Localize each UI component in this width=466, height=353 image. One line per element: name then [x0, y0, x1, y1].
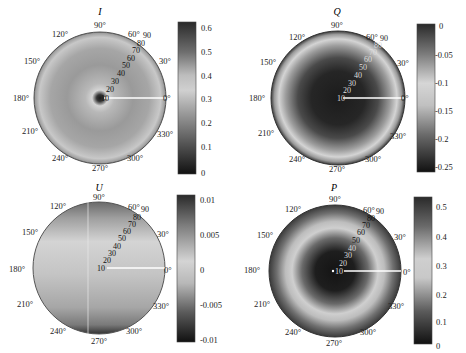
radial-tick-50: 50	[352, 236, 360, 245]
angle-150: 150°	[24, 56, 40, 66]
angle-210: 210°	[22, 126, 38, 136]
angle-90: 90°	[94, 20, 106, 30]
radial-tick-10: 10	[335, 267, 343, 276]
panel-title: I	[97, 6, 102, 17]
angle-330: 330°	[157, 129, 173, 139]
radial-tick-30: 30	[348, 79, 356, 88]
angle-150: 150°	[22, 227, 38, 237]
angle-0: 0°	[403, 267, 411, 277]
angle-60: 60°	[128, 202, 140, 212]
angle-180: 180°	[244, 265, 260, 275]
angle-30: 30°	[157, 229, 169, 239]
cb-tick: 0.3	[436, 261, 447, 271]
cb-tick: 0.5	[201, 47, 212, 57]
angle-150: 150°	[260, 57, 276, 67]
angle-210: 210°	[258, 128, 274, 138]
radial-tick-20: 20	[106, 85, 114, 94]
angle-120: 120°	[285, 204, 301, 214]
cb-tick: -0.15	[435, 106, 453, 116]
angle-240: 240°	[52, 153, 68, 163]
cb-tick: 0	[201, 168, 205, 176]
radial-tick-60: 60	[127, 54, 135, 63]
polar-plot-I: I 90° 120° 60° 150° 30° 180° 0° 210° 330…	[0, 0, 233, 176]
cb-tick: 0.2	[436, 290, 447, 300]
radial-tick-90: 90	[143, 31, 151, 40]
angle-270: 270°	[329, 164, 345, 174]
radial-tick-80: 80	[367, 214, 375, 223]
angle-30: 30°	[394, 232, 406, 242]
radial-tick-10: 10	[101, 94, 109, 103]
panel-title: P	[330, 182, 337, 193]
cb-tick: -0.005	[200, 300, 222, 310]
colorbar-I	[178, 22, 196, 174]
panel-title: Q	[333, 6, 341, 17]
angle-240: 240°	[50, 326, 66, 336]
colorbar-U	[177, 195, 195, 342]
cb-tick: 0.01	[200, 195, 215, 205]
radial-tick-80: 80	[133, 213, 141, 222]
angle-90: 90°	[93, 192, 105, 202]
radial-tick-30: 30	[111, 77, 119, 86]
angle-150: 150°	[257, 230, 273, 240]
cb-tick: 0.2	[201, 118, 212, 128]
angle-210: 210°	[17, 299, 33, 309]
cb-tick: 0	[200, 265, 204, 275]
angle-270: 270°	[91, 336, 107, 346]
angle-60: 60°	[128, 29, 140, 39]
radial-tick-40: 40	[354, 71, 362, 80]
colorbar-Q	[417, 24, 435, 172]
cb-tick: -0.2	[435, 134, 448, 144]
cb-tick: -0.05	[435, 50, 453, 60]
radial-tick-40: 40	[348, 244, 356, 253]
panel-P: P 90° 120° 60° 150° 30° 180° 0° 210° 330…	[233, 176, 466, 353]
angle-90: 90°	[329, 194, 341, 204]
panel-U: U 90° 120° 60° 150° 30° 180° 0° 210° 330…	[0, 176, 233, 353]
polar-plot-P: P 90° 120° 60° 150° 30° 180° 0° 210° 330…	[233, 176, 466, 353]
angle-330: 330°	[153, 301, 169, 311]
radial-tick-10: 10	[337, 94, 345, 103]
polar-plot-U: U 90° 120° 60° 150° 30° 180° 0° 210° 330…	[0, 176, 233, 353]
angle-0: 0°	[163, 93, 171, 103]
radial-tick-10: 10	[97, 264, 105, 273]
cb-tick: 0.005	[200, 230, 219, 240]
angle-30: 30°	[397, 58, 409, 68]
colorbar-P	[414, 197, 432, 344]
angle-180: 180°	[9, 264, 25, 274]
angle-300: 300°	[365, 154, 381, 164]
angle-330: 330°	[388, 301, 404, 311]
angle-180: 180°	[13, 93, 29, 103]
cb-tick: 0.4	[201, 71, 212, 81]
radial-tick-90: 90	[141, 205, 149, 214]
cb-tick: -0.1	[435, 78, 448, 88]
angle-120: 120°	[289, 32, 305, 42]
angle-180: 180°	[249, 93, 265, 103]
radial-tick-50: 50	[359, 63, 367, 72]
angle-120: 120°	[50, 201, 66, 211]
angle-300: 300°	[360, 327, 376, 337]
cb-tick: 0	[436, 341, 440, 351]
radial-tick-90: 90	[376, 207, 384, 216]
radial-tick-40: 40	[113, 242, 121, 251]
radial-tick-90: 90	[380, 34, 388, 43]
cb-tick: -0.01	[200, 335, 218, 345]
angle-300: 300°	[126, 326, 142, 336]
radial-tick-20: 20	[339, 259, 347, 268]
radial-tick-80: 80	[137, 39, 145, 48]
angle-270: 270°	[326, 338, 342, 348]
angle-300: 300°	[127, 153, 143, 163]
angle-240: 240°	[289, 154, 305, 164]
angle-0: 0°	[401, 93, 409, 103]
angle-30: 30°	[159, 56, 171, 66]
cb-tick: 0.4	[436, 232, 447, 242]
angle-120: 120°	[52, 29, 68, 39]
cb-tick: 0.3	[201, 94, 212, 104]
angle-210: 210°	[254, 299, 270, 309]
cb-tick: 0.1	[436, 317, 447, 327]
radial-tick-40: 40	[117, 69, 125, 78]
angle-330: 330°	[390, 131, 406, 141]
cb-tick: 0.6	[201, 23, 212, 33]
angle-90: 90°	[331, 20, 343, 30]
cb-tick: -0.25	[435, 162, 453, 172]
panel-Q: Q 90° 120° 60° 150° 30° 180° 0° 210° 330…	[233, 0, 466, 176]
angle-0: 0°	[164, 265, 172, 275]
